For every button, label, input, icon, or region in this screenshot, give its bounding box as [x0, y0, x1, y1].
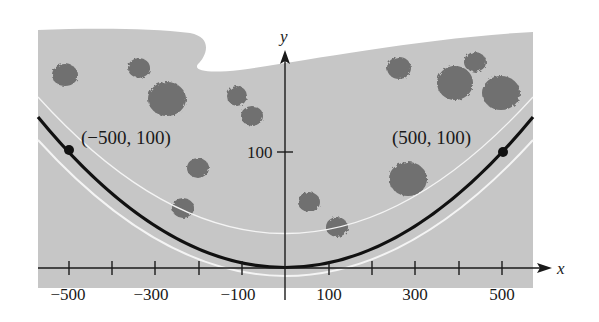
- tree-icon: [241, 106, 263, 126]
- tree-icon: [464, 52, 486, 72]
- x-tick-label-neg100: −100: [220, 285, 255, 304]
- point-left-label: (−500, 100): [81, 127, 171, 149]
- tree-icon: [172, 198, 194, 218]
- tree-icon: [437, 66, 473, 100]
- tree-icon: [298, 192, 320, 212]
- tree-icon: [148, 82, 186, 116]
- y-axis-label: y: [278, 27, 288, 46]
- tree-icon: [52, 64, 78, 86]
- x-tick-label-300: 300: [402, 285, 428, 304]
- tree-icon: [482, 76, 520, 110]
- x-tick-label-neg300: −300: [133, 285, 168, 304]
- tree-icon: [227, 86, 247, 106]
- x-tick-label-500: 500: [489, 285, 515, 304]
- point-right-marker: [498, 147, 508, 157]
- tree-icon: [187, 158, 209, 178]
- parabola-chart: x y 100 −500 −300 −100 100 300 500 (−500…: [0, 0, 599, 322]
- tree-icon: [387, 57, 411, 79]
- x-tick-label-100: 100: [316, 285, 342, 304]
- x-axis-label: x: [556, 259, 565, 278]
- y-tick-label-100: 100: [247, 143, 273, 162]
- point-left-marker: [64, 145, 74, 155]
- tree-icon: [128, 58, 150, 78]
- x-tick-label-neg500: −500: [50, 285, 85, 304]
- tree-icon: [389, 162, 427, 196]
- point-right-label: (500, 100): [392, 127, 471, 149]
